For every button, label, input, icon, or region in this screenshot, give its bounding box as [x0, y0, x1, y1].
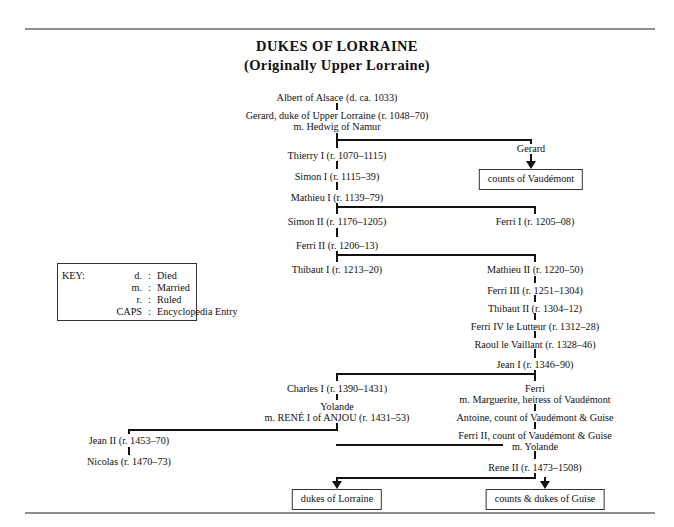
connector-split-bar-thibaut1-mathieu2 [336, 254, 536, 256]
connector-bar-down-thierry [336, 139, 338, 148]
connector-split-bar-simon2-ferri1 [336, 206, 536, 208]
node-thierry-i: Thierry I (r. 1070–1115) [288, 150, 387, 161]
connector-mathieu-ii-to-ferri-iii [534, 276, 536, 283]
connector-split-bar-charles1-ferri [336, 373, 536, 375]
connector-bar-down-jean-ii [128, 429, 130, 434]
node-ferri-i: Ferri I (r. 1205–08) [496, 216, 575, 227]
node-mathieu-ii: Mathieu II (r. 1220–50) [487, 264, 583, 275]
connector-simon-i-to-mathieu-i [336, 182, 338, 190]
genealogy-chart-page: DUKES OF LORRAINE (Originally Upper Lorr… [0, 0, 674, 527]
node-gerard: Gerard [517, 143, 545, 154]
key-sep-caps: : [148, 306, 151, 317]
arrow-gerard-to-vaudemont [526, 161, 536, 169]
box-dukes-of-lorraine: dukes of Lorraine [292, 489, 382, 510]
bottom-rule [25, 512, 655, 514]
node-mathieu-i: Mathieu I (r. 1139–79) [291, 192, 383, 203]
key-sep-died: : [148, 270, 151, 281]
key-meaning-married: Married [157, 282, 190, 293]
connector-ferri-ii-vaudemont-to-rene-ii [534, 451, 536, 459]
box-counts-and-dukes-of-guise: counts & dukes of Guise [486, 489, 605, 510]
connector-split-bar-thierry-gerard [336, 139, 532, 141]
connector-yolande-marriage-line [336, 444, 503, 446]
node-thibaut-i: Thibaut I (r. 1213–20) [292, 264, 383, 275]
node-yolande: Yolande [320, 401, 354, 412]
box-counts-of-vaudemont: counts of Vaudémont [479, 169, 583, 190]
node-albert-of-alsace: Albert of Alsace (d. ca. 1033) [277, 92, 398, 103]
node-charles-i: Charles I (r. 1390–1431) [287, 383, 387, 394]
key-meaning-ruled: Ruled [157, 294, 181, 305]
arrow-to-dukes-lorraine [332, 481, 342, 489]
connector-bar-down-mathieu2 [534, 254, 536, 262]
connector-ferri-iv-to-raoul [534, 331, 536, 338]
connector-split-bar-terminal-boxes [336, 477, 536, 479]
node-yolande-marriage-rene-i-anjou: m. RENÉ I of ANJOU (r. 1431–53) [265, 412, 410, 423]
node-nicolas: Nicolas (r. 1470–73) [87, 456, 171, 467]
key-meaning-caps: Encyclopedia Entry [157, 306, 238, 317]
connector-bar-down-charles1 [336, 373, 338, 381]
node-gerard-duke-of-upper-lorraine: Gerard, duke of Upper Lorraine (r. 1048–… [246, 110, 429, 121]
connector-bar-down-thibaut1 [336, 254, 338, 262]
key-abbr-ruled: r. [96, 294, 142, 305]
connector-raoul-to-jean-i [534, 349, 536, 358]
node-simon-i: Simon I (r. 1115–39) [295, 171, 380, 182]
connector-simon-ii-to-ferri-ii [336, 228, 338, 237]
key-sep-ruled: : [148, 294, 151, 305]
node-jean-i: Jean I (r. 1346–90) [497, 359, 574, 370]
key-abbr-caps: CAPS [96, 306, 142, 317]
connector-jean-ii-to-nicolas [128, 447, 130, 455]
key-abbr-died: d. [96, 270, 142, 281]
key-meaning-died: Died [157, 270, 177, 281]
connector-bar-down-ferri1 [534, 206, 536, 214]
connector-charles-i-to-yolande [336, 394, 338, 400]
connector-yolande-to-jean-ii-bar [128, 429, 338, 431]
key-sep-married: : [148, 282, 151, 293]
connector-bar-down-simon2 [336, 206, 338, 214]
top-rule [25, 28, 655, 30]
connector-ferri-iii-to-thibaut-ii [534, 295, 536, 302]
connector-bar-down-ferri-vaudemont [534, 373, 536, 381]
page-title-line1: DUKES OF LORRAINE [0, 38, 674, 55]
arrow-to-counts-dukes-guise [540, 481, 550, 489]
connector-bar-down-gerard [530, 139, 532, 144]
node-ferri-ii: Ferri II (r. 1206–13) [296, 240, 378, 251]
node-ferri-vaudemont: Ferri [525, 383, 545, 394]
page-title-line2: (Originally Upper Lorraine) [0, 57, 674, 74]
node-simon-ii: Simon II (r. 1176–1205) [288, 216, 387, 227]
connector-ferri-vaudemont-to-antoine [534, 404, 536, 411]
node-ferri-ii-count-vaudemont-guise: Ferri II, count of Vaudémont & Guise [458, 430, 611, 441]
node-jean-ii: Jean II (r. 1453–70) [89, 435, 169, 446]
connector-thierry-to-simon-i [336, 161, 338, 169]
node-rene-ii: Rene II (r. 1473–1508) [488, 462, 581, 473]
node-gerard-duke-marriage: m. Hedwig of Namur [293, 121, 380, 132]
connector-albert-to-gerard-duke [336, 103, 338, 110]
connector-thibaut-ii-to-ferri-iv [534, 313, 536, 320]
connector-antoine-to-ferri-ii-vaudemont [534, 422, 536, 429]
key-abbr-married: m. [96, 282, 142, 293]
key-label: KEY: [62, 270, 85, 281]
